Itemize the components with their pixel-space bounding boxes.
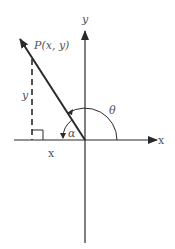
horizontal-leg-label: x [48,147,55,160]
theta-label: θ [109,104,116,117]
diagram-canvas: y x P(x, y) y x θ α [0,0,175,249]
y-axis-label: y [81,13,89,26]
point-label: P(x, y) [33,39,69,52]
alpha-label: α [68,127,76,140]
right-angle-marker [32,130,43,140]
alpha-arrowhead-icon [60,133,66,139]
vertical-leg-label: y [21,89,29,102]
terminal-side-ray [20,39,85,140]
x-axis-label: x [158,134,165,147]
